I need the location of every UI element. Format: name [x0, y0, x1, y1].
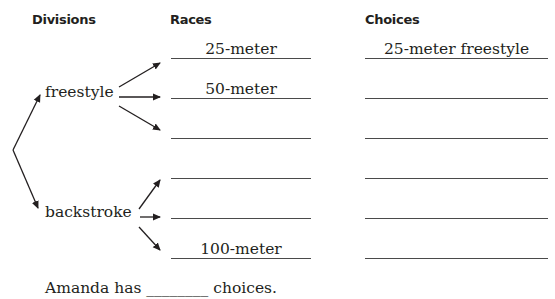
choice-line-2 [365, 98, 548, 99]
sentence-prefix: Amanda has [45, 279, 141, 297]
race-line-4 [171, 178, 311, 179]
division-freestyle: freestyle [45, 83, 114, 101]
choice-line-6 [365, 258, 548, 259]
answer-blank[interactable]: ________ [146, 279, 208, 297]
choice-line-3 [365, 138, 548, 139]
choice-item-1[interactable]: 25-meter freestyle [365, 40, 548, 58]
race-line-2 [171, 98, 311, 99]
sentence-suffix: choices. [213, 279, 277, 297]
choice-line-4 [365, 178, 548, 179]
race-line-6 [171, 258, 311, 259]
race-item-6[interactable]: 100-meter [171, 240, 311, 258]
race-line-5 [171, 218, 311, 219]
choice-line-5 [365, 218, 548, 219]
race-item-2[interactable]: 50-meter [171, 80, 311, 98]
race-item-1[interactable]: 25-meter [171, 40, 311, 58]
choice-line-1 [365, 58, 548, 59]
race-line-1 [171, 58, 311, 59]
race-line-3 [171, 138, 311, 139]
choices-sentence: Amanda has ________ choices. [45, 279, 277, 297]
division-backstroke: backstroke [45, 203, 132, 221]
